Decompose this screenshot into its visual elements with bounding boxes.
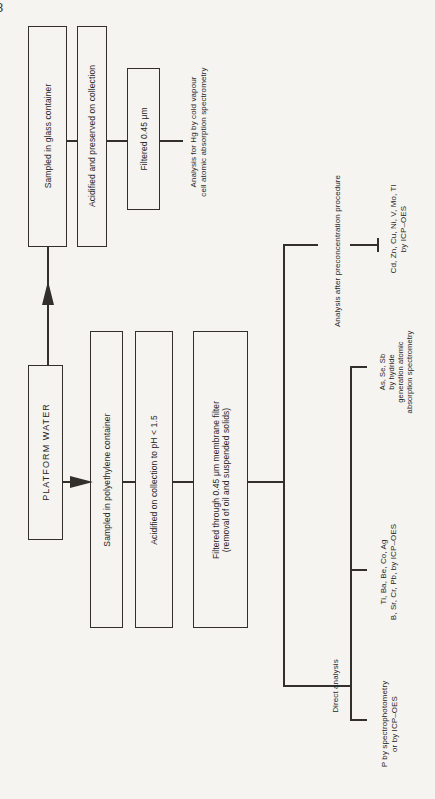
- scanned-flowchart-page: 8 Sampled in glass container Acidified a…: [0, 0, 435, 799]
- connector-filter-to-hg-result: [159, 140, 183, 142]
- label-cd-zn-result: Cd, Zn, Cu, Ni, V, Mo, Tl by ICP–OES: [389, 185, 409, 274]
- label-cd-zn-line1: Cd, Zn, Cu, Ni, V, Mo, Tl: [389, 185, 399, 274]
- box-membrane-filter-label: Filtered through 0.45 μm membrane filter…: [211, 401, 231, 559]
- connector-poly-to-acidified: [122, 481, 136, 483]
- tick-preconcentration-result: [377, 238, 379, 252]
- label-as-se-result: As, Se, Sb by hydride generation atomic …: [378, 331, 414, 414]
- label-ti-ba-result: Ti, Ba, Be, Co, Ag B, Sr, Cr, Pb, by ICP…: [379, 524, 399, 620]
- connector-split-vertical: [283, 244, 285, 687]
- connector-acidified-to-filter: [106, 140, 128, 142]
- bracket-direct-results: [350, 367, 352, 721]
- connector-membrane-to-split: [247, 481, 284, 483]
- tick-hydride-result: [350, 366, 367, 368]
- connector-preconcentration-right: [350, 244, 379, 246]
- tick-p-result: [350, 719, 367, 721]
- label-p-line2: or by ICP–OES: [390, 681, 400, 768]
- label-as-se-line4: absorption spectrometry: [405, 331, 414, 414]
- box-sampled-polyethylene-label: Sampled in polyethylene container: [102, 413, 112, 546]
- label-as-se-line2: by hydride: [387, 331, 396, 414]
- box-membrane-filter-line2: (removal of oil and suspended solids): [221, 401, 231, 559]
- label-cd-zn-line2: by ICP–OES: [399, 185, 409, 274]
- connector-preconcentration-left: [283, 244, 318, 246]
- label-hg-analysis-result: Analysis for Hg by cold vapour cell atom…: [189, 67, 209, 196]
- label-direct-analysis: Direct analysis: [331, 659, 341, 713]
- box-acidified-ph-label: Acidified on collection to pH < 1.5: [149, 415, 159, 544]
- tick-icp-result: [350, 569, 367, 571]
- label-ti-ba-line1: Ti, Ba, Be, Co, Ag: [379, 524, 389, 620]
- label-p-result: P by spectrophotometry or by ICP–OES: [380, 681, 400, 768]
- arrow-line-to-glass-branch: [47, 246, 49, 366]
- connector-glass-to-acidified: [66, 140, 78, 142]
- label-as-se-line1: As, Se, Sb: [378, 331, 387, 414]
- label-as-se-line3: generation atomic: [396, 331, 405, 414]
- arrow-up-icon: [42, 281, 54, 305]
- box-acidified-preserved-label: Acidified and preserved on collection: [87, 65, 97, 207]
- box-filtered-045-label: Filtered 0.45 μm: [139, 107, 149, 170]
- label-hg-analysis-line1: Analysis for Hg by cold vapour: [189, 67, 199, 196]
- page-number: 8: [0, 0, 3, 15]
- connector-acidified-to-membrane: [172, 481, 194, 483]
- box-platform-water-label: PLATFORM WATER: [41, 403, 51, 501]
- label-hg-analysis-line2: cell atomic absorption spectrometry: [199, 67, 209, 196]
- label-p-line1: P by spectrophotometry: [380, 681, 390, 768]
- label-preconcentration: Analysis after preconcentration procedur…: [333, 175, 343, 327]
- box-membrane-filter-line1: Filtered through 0.45 μm membrane filter: [211, 401, 221, 559]
- label-ti-ba-line2: B, Sr, Cr, Pb, by ICP–OES: [389, 524, 399, 620]
- box-sampled-glass-container-label: Sampled in glass container: [43, 84, 53, 189]
